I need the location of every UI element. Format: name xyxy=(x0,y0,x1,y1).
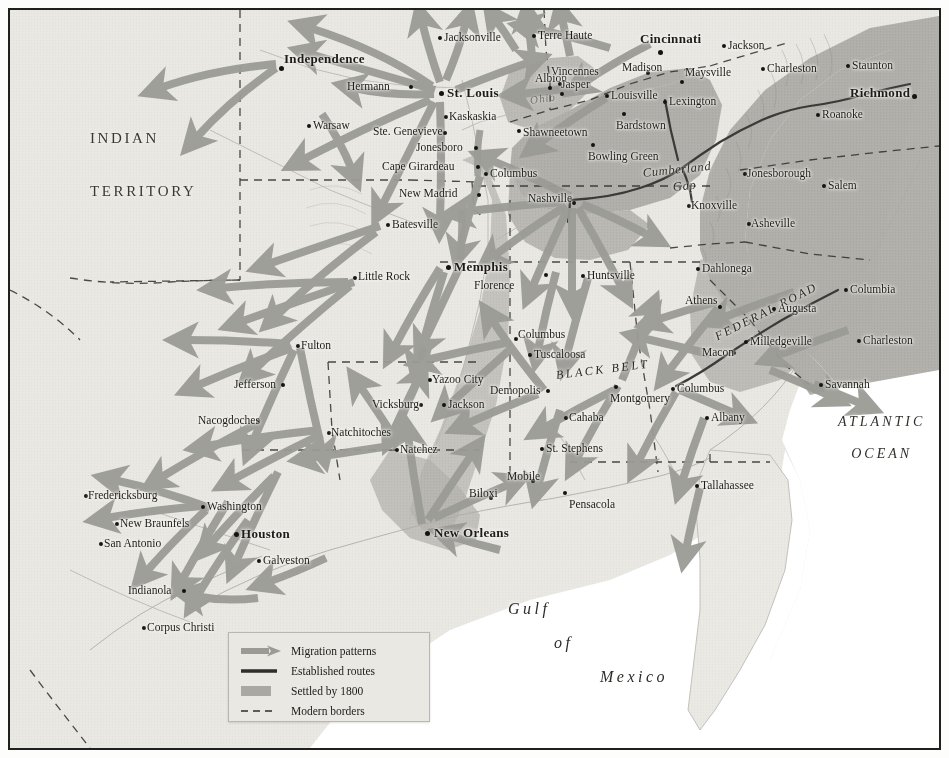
city-label-shawneetown: Shawneetown xyxy=(523,127,588,139)
city-label-florence: Florence xyxy=(474,280,514,292)
city-label-new-madrid: New Madrid xyxy=(399,188,457,200)
city-dot xyxy=(819,383,823,387)
city-label-savannah: Savannah xyxy=(825,379,870,391)
city-label-vicksburg: Vicksburg xyxy=(372,399,419,411)
city-label-maysville: Maysville xyxy=(685,67,731,79)
map-legend: Migration patterns Established routes Se… xyxy=(228,632,430,722)
city-label-new-braunfels: New Braunfels xyxy=(120,518,189,530)
established-route-icon xyxy=(239,664,283,678)
city-dot xyxy=(705,416,709,420)
city-dot xyxy=(234,532,239,537)
city-dot xyxy=(718,305,722,309)
city-label-louisville: Louisville xyxy=(611,90,658,102)
city-dot xyxy=(761,67,765,71)
legend-item-settled: Settled by 1800 xyxy=(239,681,363,701)
city-label-nacogdoches: Nacogdoches xyxy=(198,415,260,427)
city-dot xyxy=(540,447,544,451)
city-label-new-orleans: New Orleans xyxy=(434,526,509,539)
city-dot xyxy=(614,385,618,389)
city-label-cahaba: Cahaba xyxy=(569,412,603,424)
city-label-ste-genevieve: Ste. Genevieve xyxy=(373,126,443,138)
legend-label-routes: Established routes xyxy=(291,665,375,677)
city-dot xyxy=(822,184,826,188)
city-label-kaskaskia: Kaskaskia xyxy=(449,111,496,123)
city-dot xyxy=(696,267,700,271)
city-label-huntsville: Huntsville xyxy=(587,270,635,282)
city-dot xyxy=(442,403,446,407)
city-dot xyxy=(409,85,413,89)
city-label-dahlonega: Dahlonega xyxy=(702,263,752,275)
city-label-knoxville: Knoxville xyxy=(691,200,737,212)
city-label-san-antonio: San Antonio xyxy=(104,538,161,550)
city-label-houston: Houston xyxy=(241,527,290,540)
city-dot xyxy=(844,288,848,292)
city-dot xyxy=(658,50,663,55)
legend-item-borders: Modern borders xyxy=(239,701,365,721)
city-label-corpus-christi: Corpus Christi xyxy=(147,622,214,634)
feature-label-gap: Gap xyxy=(672,178,697,195)
city-dot xyxy=(476,165,480,169)
city-label-columbus: Columbus xyxy=(490,168,537,180)
city-dot xyxy=(99,542,103,546)
city-dot xyxy=(591,143,595,147)
city-label-little-rock: Little Rock xyxy=(358,271,410,283)
city-label-macon: Macon xyxy=(702,347,734,359)
settled-swatch-icon xyxy=(239,684,283,698)
legend-label-borders: Modern borders xyxy=(291,705,365,717)
migration-arrow-icon xyxy=(239,644,283,658)
city-label-terre-haute: Terre Haute xyxy=(538,30,592,42)
city-dot xyxy=(528,353,532,357)
legend-item-routes: Established routes xyxy=(239,661,375,681)
city-dot xyxy=(857,339,861,343)
city-label-cincinnati: Cincinnati xyxy=(640,32,702,45)
city-dot xyxy=(477,193,481,197)
city-dot xyxy=(386,223,390,227)
city-dot xyxy=(257,559,261,563)
city-dot xyxy=(560,92,564,96)
city-label-athens: Athens xyxy=(685,295,718,307)
city-label-natchez: Natchez xyxy=(400,444,438,456)
city-label-vincennes: Vincennes xyxy=(551,66,599,78)
city-label-augusta: Augusta xyxy=(778,303,816,315)
city-label-bardstown: Bardstown xyxy=(616,120,666,132)
city-dot xyxy=(307,124,311,128)
city-label-jackson: Jackson xyxy=(728,40,764,52)
city-dot xyxy=(279,66,284,71)
city-dot xyxy=(695,484,699,488)
city-label-jonesboro: Jonesboro xyxy=(416,142,463,154)
city-dot xyxy=(680,80,684,84)
legend-label-settled: Settled by 1800 xyxy=(291,685,363,697)
city-dot xyxy=(201,505,205,509)
city-dot xyxy=(722,44,726,48)
city-dot xyxy=(425,531,430,536)
city-dot xyxy=(419,403,423,407)
city-dot xyxy=(671,387,675,391)
city-dot xyxy=(446,265,451,270)
city-label-lexington: Lexington xyxy=(669,96,716,108)
city-label-galveston: Galveston xyxy=(263,555,310,567)
map-frame: INDIAN TERRITORY ATLANTIC OCEAN Gulf of … xyxy=(8,8,941,750)
city-dot xyxy=(517,129,521,133)
city-label-yazoo-city: Yazoo City xyxy=(432,374,484,386)
city-dot xyxy=(142,626,146,630)
city-label-madison: Madison xyxy=(622,62,662,74)
city-label-st-louis: St. Louis xyxy=(447,86,499,99)
city-dot xyxy=(772,307,776,311)
city-label-jackson: Jackson xyxy=(448,399,484,411)
city-dot xyxy=(395,448,399,452)
city-dot xyxy=(443,131,447,135)
city-label-washington: Washington xyxy=(207,501,262,513)
ocean-label-gulf-of-mexico: Gulf of Mexico xyxy=(508,600,668,686)
city-label-albany: Albany xyxy=(711,412,745,424)
city-label-nashville: Nashville xyxy=(528,193,572,205)
city-label-pensacola: Pensacola xyxy=(569,499,615,511)
city-dot xyxy=(816,113,820,117)
city-label-montgomery: Montgomery xyxy=(610,393,670,405)
city-label-charleston: Charleston xyxy=(863,335,913,347)
city-label-jacksonville: Jacksonville xyxy=(444,32,501,44)
city-dot xyxy=(622,112,626,116)
city-dot xyxy=(564,416,568,420)
legend-item-migration: Migration patterns xyxy=(239,641,376,661)
city-dot xyxy=(474,146,478,150)
city-dot xyxy=(444,115,448,119)
